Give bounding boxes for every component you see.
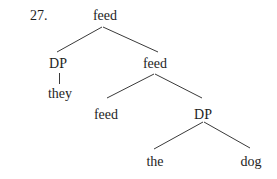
node-feed-head: feed [94,108,118,122]
node-dp-subject: DP [49,57,67,71]
node-dp-object: DP [194,108,212,122]
branch-dp-the [154,122,203,149]
branch-feed-dp [155,74,202,98]
tree-branches [0,0,277,179]
branch-dp-dog [204,122,250,148]
branch-root-dp [57,27,102,52]
node-feed-intermediate: feed [143,57,167,71]
example-number: 27. [30,9,48,23]
node-root-feed: feed [93,9,117,23]
branch-feed-feedhead [107,74,154,98]
branch-root-feed [103,27,158,52]
node-dog: dog [241,155,262,169]
node-they: they [48,87,72,101]
node-the: the [146,155,163,169]
